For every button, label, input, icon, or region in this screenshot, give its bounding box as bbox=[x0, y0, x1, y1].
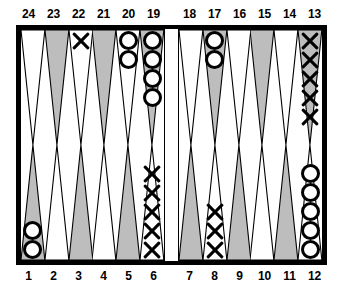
point-label-3: 3 bbox=[66, 266, 91, 286]
point-label-16: 16 bbox=[227, 4, 252, 24]
point-triangle bbox=[179, 145, 203, 260]
point-triangle bbox=[250, 30, 274, 145]
point-labels-top-right: 18 17 16 15 14 13 bbox=[177, 4, 327, 24]
point-labels-bottom-left: 1 2 3 4 5 6 bbox=[16, 266, 166, 286]
point-triangle bbox=[250, 145, 274, 260]
point-label-22: 22 bbox=[66, 4, 91, 24]
point-label-12: 12 bbox=[302, 266, 327, 286]
point-label-15: 15 bbox=[252, 4, 277, 24]
point-triangle bbox=[116, 30, 140, 145]
point-12[interactable] bbox=[298, 145, 322, 260]
point-label-7: 7 bbox=[177, 266, 202, 286]
point-triangle bbox=[298, 30, 322, 145]
point-16[interactable] bbox=[227, 30, 251, 145]
labels-bar-gap-top bbox=[166, 4, 177, 24]
point-triangle bbox=[140, 145, 164, 260]
point-11[interactable] bbox=[274, 145, 298, 260]
labels-bar-gap-bottom bbox=[166, 266, 177, 286]
point-triangle bbox=[203, 30, 227, 145]
point-label-20: 20 bbox=[116, 4, 141, 24]
point-5[interactable] bbox=[116, 145, 140, 260]
point-3[interactable] bbox=[69, 145, 93, 260]
point-22[interactable] bbox=[69, 30, 93, 145]
point-label-21: 21 bbox=[91, 4, 116, 24]
point-10[interactable] bbox=[250, 145, 274, 260]
point-8[interactable] bbox=[203, 145, 227, 260]
point-9[interactable] bbox=[227, 145, 251, 260]
point-labels-top: 24 23 22 21 20 19 18 17 16 15 14 13 bbox=[16, 4, 327, 24]
point-label-24: 24 bbox=[16, 4, 41, 24]
point-13[interactable] bbox=[298, 30, 322, 145]
point-label-17: 17 bbox=[202, 4, 227, 24]
point-triangle bbox=[227, 30, 251, 145]
point-7[interactable] bbox=[179, 145, 203, 260]
point-label-10: 10 bbox=[252, 266, 277, 286]
point-triangle bbox=[45, 145, 69, 260]
quadrant-top-right bbox=[179, 30, 322, 145]
point-24[interactable] bbox=[21, 30, 45, 145]
point-triangle bbox=[45, 30, 69, 145]
point-23[interactable] bbox=[45, 30, 69, 145]
point-label-11: 11 bbox=[277, 266, 302, 286]
point-triangle bbox=[274, 145, 298, 260]
point-label-13: 13 bbox=[302, 4, 327, 24]
point-1[interactable] bbox=[21, 145, 45, 260]
point-triangle bbox=[21, 30, 45, 145]
point-triangle bbox=[179, 30, 203, 145]
point-triangle bbox=[69, 30, 93, 145]
point-20[interactable] bbox=[116, 30, 140, 145]
point-labels-bottom-right: 7 8 9 10 11 12 bbox=[177, 266, 327, 286]
point-triangle bbox=[116, 145, 140, 260]
point-label-19: 19 bbox=[141, 4, 166, 24]
board-frame bbox=[16, 25, 327, 265]
point-6[interactable] bbox=[140, 145, 164, 260]
point-21[interactable] bbox=[92, 30, 116, 145]
point-2[interactable] bbox=[45, 145, 69, 260]
point-triangle bbox=[21, 145, 45, 260]
board-half-left bbox=[20, 29, 165, 261]
point-label-6: 6 bbox=[141, 266, 166, 286]
point-triangle bbox=[140, 30, 164, 145]
point-19[interactable] bbox=[140, 30, 164, 145]
point-label-4: 4 bbox=[91, 266, 116, 286]
point-label-14: 14 bbox=[277, 4, 302, 24]
point-triangle bbox=[69, 145, 93, 260]
point-label-23: 23 bbox=[41, 4, 66, 24]
point-18[interactable] bbox=[179, 30, 203, 145]
point-label-9: 9 bbox=[227, 266, 252, 286]
point-triangle bbox=[92, 145, 116, 260]
point-15[interactable] bbox=[250, 30, 274, 145]
point-label-2: 2 bbox=[41, 266, 66, 286]
backgammon-board-figure: 24 23 22 21 20 19 18 17 16 15 14 13 bbox=[0, 0, 343, 291]
point-4[interactable] bbox=[92, 145, 116, 260]
point-triangle bbox=[203, 145, 227, 260]
point-triangle bbox=[227, 145, 251, 260]
board-half-right bbox=[178, 29, 323, 261]
point-label-1: 1 bbox=[16, 266, 41, 286]
point-17[interactable] bbox=[203, 30, 227, 145]
quadrant-top-left bbox=[21, 30, 164, 145]
point-label-8: 8 bbox=[202, 266, 227, 286]
quadrant-bottom-left bbox=[21, 145, 164, 260]
point-label-18: 18 bbox=[177, 4, 202, 24]
point-14[interactable] bbox=[274, 30, 298, 145]
quadrant-bottom-right bbox=[179, 145, 322, 260]
point-labels-bottom: 1 2 3 4 5 6 7 8 9 10 11 12 bbox=[16, 266, 327, 286]
point-triangle bbox=[298, 145, 322, 260]
point-triangle bbox=[274, 30, 298, 145]
point-triangle bbox=[92, 30, 116, 145]
point-label-5: 5 bbox=[116, 266, 141, 286]
board-bar bbox=[165, 29, 178, 261]
point-labels-top-left: 24 23 22 21 20 19 bbox=[16, 4, 166, 24]
